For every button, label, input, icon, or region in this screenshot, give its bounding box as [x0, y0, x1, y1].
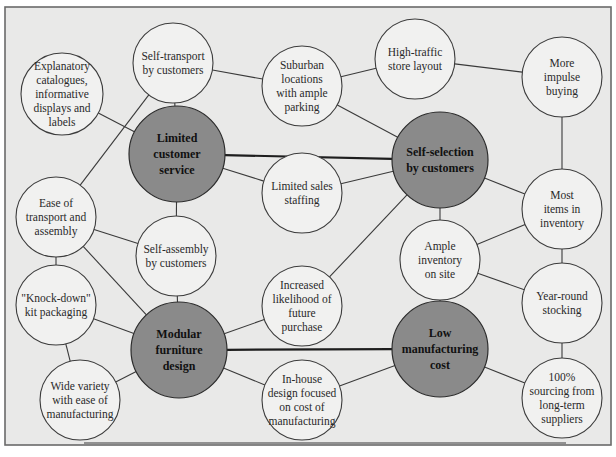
node-label-line: Limited	[157, 131, 198, 145]
node-label-line: High-traffic	[388, 46, 443, 59]
core-node-low-cost: Lowmanufacturingcost	[392, 301, 488, 397]
node-self-transport: Self-transportby customers	[133, 23, 213, 103]
node-knock-down: "Knock-down"kit packaging	[16, 265, 96, 345]
node-most-items: Mostitems ininventory	[522, 169, 602, 249]
node-sourcing: 100%sourcing fromlong-termsuppliers	[522, 358, 602, 438]
node-label-line: manufacturing	[402, 342, 479, 356]
core-node-modular: Modularfurnituredesign	[131, 302, 227, 398]
node-label-line: impulse	[544, 71, 580, 84]
node-circle	[375, 19, 455, 99]
node-label: Self-assemblyby customers	[143, 243, 208, 270]
node-label-line: staffing	[285, 194, 320, 207]
link-modular-to-low-cost	[227, 349, 392, 350]
node-high-traffic: High-trafficstore layout	[375, 19, 455, 99]
core-node-self-selection: Self-selectionby customers	[392, 112, 488, 208]
node-limited-staffing: Limited salesstaffing	[262, 153, 342, 233]
node-circle	[522, 263, 602, 343]
node-label-line: kit packaging	[25, 306, 88, 319]
node-label-line: Most	[550, 189, 574, 201]
node-label-line: Self-assembly	[143, 243, 208, 256]
node-label-line: Ample	[424, 240, 455, 253]
node-label-line: Increased	[280, 279, 324, 291]
node-label-line: service	[159, 163, 195, 177]
node-label-line: labels	[49, 116, 76, 128]
node-label: Year-roundstocking	[536, 290, 588, 317]
node-label-line: Low	[429, 326, 452, 340]
node-label-line: Limited sales	[271, 180, 333, 192]
node-label: High-trafficstore layout	[388, 46, 443, 73]
node-circle	[262, 360, 342, 440]
node-label-line: cost	[430, 358, 450, 372]
node-circle	[262, 153, 342, 233]
node-label-line: Explanatory	[34, 60, 90, 73]
node-circle	[262, 266, 342, 346]
node-label-line: buying	[546, 85, 578, 98]
node-label-line: with ample	[276, 87, 327, 100]
node-label-line: Wide variety	[50, 380, 109, 393]
node-circle	[133, 23, 213, 103]
node-label-line: More	[550, 57, 575, 69]
node-label-line: design focused	[268, 387, 337, 400]
node-label-line: stocking	[543, 304, 582, 317]
node-label-line: manufacturing	[46, 408, 113, 421]
node-circle	[392, 112, 488, 208]
node-label-line: displays and	[33, 102, 90, 115]
node-circle	[16, 265, 96, 345]
node-label-line: likelihood of	[272, 293, 331, 305]
node-label-line: long-term	[539, 399, 584, 412]
node-label-line: store layout	[388, 60, 443, 73]
node-explanatory: Explanatorycatalogues,informativedisplay…	[21, 53, 103, 135]
node-label-line: items in	[544, 203, 581, 215]
node-in-house: In-housedesign focusedon cost ofmanufact…	[262, 360, 342, 440]
node-label-line: by customers	[142, 64, 204, 77]
node-label-line: customer	[153, 147, 201, 161]
node-label-line: Modular	[156, 327, 202, 341]
node-circle	[136, 216, 216, 296]
node-label-line: inventory	[418, 254, 462, 267]
node-label-line: future	[288, 307, 315, 319]
node-label-line: In-house	[282, 373, 322, 385]
core-node-limited-service: Limitedcustomerservice	[129, 106, 225, 202]
node-label-line: on cost of	[279, 401, 325, 413]
node-impulse: Moreimpulsebuying	[522, 37, 602, 117]
node-year-round: Year-roundstocking	[522, 263, 602, 343]
node-label: "Knock-down"kit packaging	[21, 292, 90, 319]
node-label-line: sourcing from	[530, 385, 595, 398]
activity-system-diagram: Explanatorycatalogues,informativedisplay…	[0, 0, 616, 457]
node-increased-likelihood: Increasedlikelihood offuturepurchase	[262, 266, 342, 346]
node-label-line: Self-selection	[406, 145, 474, 159]
node-label-line: suppliers	[541, 413, 583, 426]
node-label-line: by customers	[145, 257, 207, 270]
node-label-line: by customers	[406, 161, 474, 175]
node-label-line: "Knock-down"	[21, 292, 90, 304]
node-label-line: manufacturing	[268, 415, 335, 428]
node-circle	[262, 46, 342, 126]
node-self-assembly: Self-assemblyby customers	[136, 216, 216, 296]
node-label: Wide varietywith ease ofmanufacturing	[46, 380, 113, 421]
node-label-line: purchase	[282, 321, 323, 334]
node-label-line: assembly	[35, 225, 78, 238]
node-label-line: with ease of	[52, 394, 108, 406]
node-label-line: transport and	[26, 211, 87, 224]
node-label-line: 100%	[549, 371, 576, 383]
node-label: Self-transportby customers	[141, 50, 205, 77]
node-circle	[522, 358, 602, 438]
node-label-line: parking	[284, 101, 319, 114]
node-label-line: locations	[281, 73, 323, 85]
node-wide-variety: Wide varietywith ease ofmanufacturing	[40, 360, 120, 440]
node-label-line: on site	[425, 268, 455, 280]
node-label-line: design	[163, 359, 196, 373]
node-label-line: furniture	[155, 343, 203, 357]
node-ease-transport: Ease oftransport andassembly	[16, 177, 96, 257]
node-label-line: catalogues,	[36, 74, 88, 87]
node-label-line: informative	[35, 88, 89, 100]
node-label-line: Ease of	[39, 197, 73, 209]
node-suburban: Suburbanlocationswith ampleparking	[262, 46, 342, 126]
node-label-line: Suburban	[280, 59, 324, 71]
node-label-line: Year-round	[536, 290, 588, 302]
node-label-line: inventory	[540, 217, 584, 230]
node-ample-inventory: Ampleinventoryon site	[400, 220, 480, 300]
node-label: Limitedcustomerservice	[153, 131, 201, 177]
node-label-line: Self-transport	[141, 50, 205, 63]
